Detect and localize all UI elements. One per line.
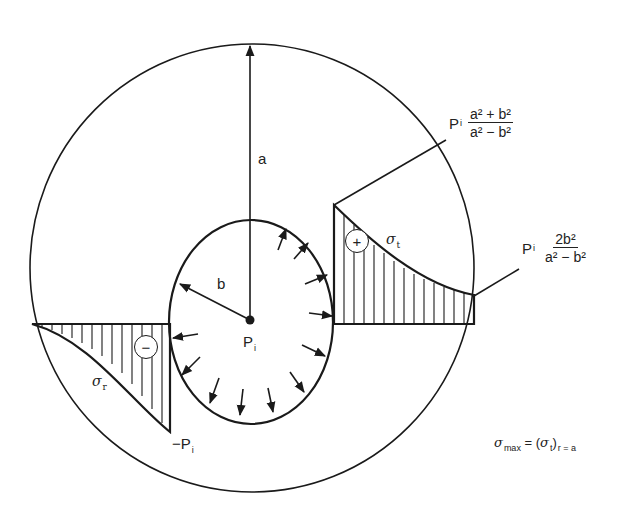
leader-line-outer (474, 269, 519, 296)
tangential-stress-inner-value: Pi a² + b² a² − b² (449, 107, 513, 139)
radius-b-label: b (217, 276, 225, 291)
radial-stress-inner-value: −Pi (172, 436, 194, 455)
radius-a-label: a (258, 151, 266, 166)
leader-line-inner (334, 140, 446, 205)
tangential-stress-outer-value: Pi 2b² a² − b² (522, 232, 588, 264)
radius-b-arrow (180, 284, 250, 320)
radial-stress-label: σr (92, 374, 107, 392)
negative-sign-badge: − (134, 335, 158, 359)
max-stress-formula: σmax = (σt)r = a (494, 436, 576, 453)
center-point (246, 316, 255, 325)
tangential-stress-label: σt (386, 232, 400, 250)
positive-sign-badge: + (345, 229, 369, 253)
internal-pressure-label: Pi (243, 334, 256, 353)
